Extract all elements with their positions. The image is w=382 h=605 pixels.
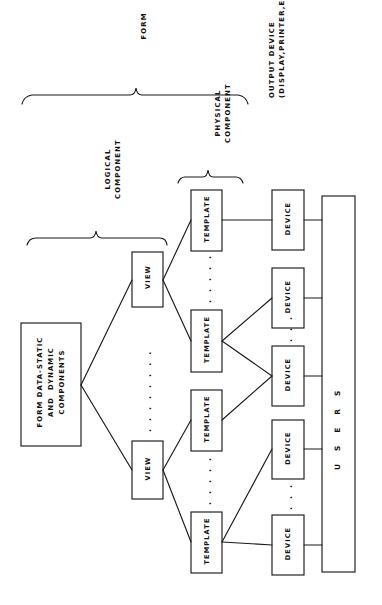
edge-template3-to-device3 xyxy=(222,376,272,420)
diagram-canvas: FORM LOGICAL COMPONENT PHYSICAL COMPONEN… xyxy=(0,0,382,605)
edge-template4-to-device5 xyxy=(222,542,272,545)
edge-template2-to-device3 xyxy=(222,341,272,376)
ellipsis-devices-gap-1: . . . xyxy=(285,308,294,342)
ellipsis-views-gap: . . . . . . . . xyxy=(144,310,153,432)
ellipsis-templates-gap-1: . . . . . xyxy=(204,247,213,303)
node-label-users: U S E R S xyxy=(333,350,342,470)
edge-template2-to-device2 xyxy=(222,298,272,341)
node-label-view-2: VIEW xyxy=(144,440,153,497)
node-label-device-4: DEVICE xyxy=(284,419,293,477)
ellipsis-devices-gap-2: . . . xyxy=(285,476,294,510)
brace-label-physical-component: PHYSICAL COMPONENT xyxy=(214,58,233,168)
edge-view1-to-template-2 xyxy=(163,280,191,341)
edge-source-to-view-1 xyxy=(81,280,132,385)
brace-label-form: FORM xyxy=(140,0,150,86)
annotation-output-device: OUTPUT DEVICE (DISPLAY,PRINTER,ETC.) xyxy=(268,0,287,98)
edge-view2-to-template-4 xyxy=(163,470,191,542)
edge-source-to-view-2 xyxy=(81,385,132,470)
node-label-template-2: TEMPLATE xyxy=(203,309,212,370)
edge-view1-to-template-1 xyxy=(163,220,191,280)
node-label-form-data: FORM DATA-STATIC AND DYNAMIC COMPONENTS xyxy=(35,322,68,442)
ellipsis-templates-gap-2: . . . . . xyxy=(204,449,213,505)
edge-view2-to-template-3 xyxy=(163,420,191,470)
node-label-template-1: TEMPLATE xyxy=(203,189,212,249)
node-label-device-5: DEVICE xyxy=(284,514,293,573)
brace-logical-component xyxy=(27,231,167,245)
diagram-vector-layer xyxy=(0,0,382,605)
brace-label-logical-component: LOGICAL COMPONENT xyxy=(104,109,123,229)
edge-template4-to-device4 xyxy=(222,449,272,542)
brace-physical-component xyxy=(178,170,243,183)
node-label-template-4: TEMPLATE xyxy=(203,511,212,571)
node-label-view-1: VIEW xyxy=(144,250,153,304)
node-label-device-1: DEVICE xyxy=(284,189,293,248)
node-label-device-3: DEVICE xyxy=(284,345,293,404)
node-label-template-3: TEMPLATE xyxy=(203,389,212,449)
